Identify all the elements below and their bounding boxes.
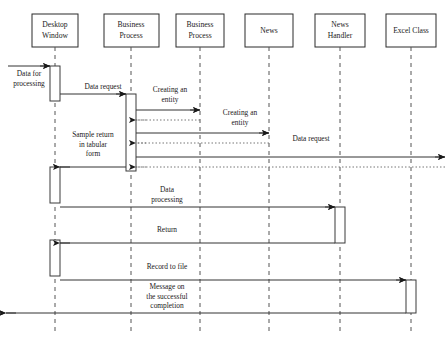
lifeline-label: Business	[117, 20, 144, 29]
lifeline-label: News	[331, 20, 348, 29]
message-label-msg-creating-entity-1: Creating anentity	[153, 85, 188, 104]
lifeline-news-handler[interactable]: NewsHandler	[315, 14, 365, 47]
message-label-msg-record-to-file: Record to file	[147, 262, 188, 271]
message-label-line: Data	[160, 185, 175, 194]
message-label-line: entity	[162, 95, 179, 104]
message-label-line: processing	[13, 79, 45, 88]
message-label-line: Data request	[84, 82, 122, 91]
message-label-msg-data-processing: Dataprocessing	[151, 185, 183, 204]
activation-rect	[50, 167, 60, 203]
message-label-line: processing	[151, 195, 183, 204]
message-label-line: Message on	[149, 282, 184, 291]
message-label-msg-data-for-processing: Data forprocessing	[13, 69, 45, 88]
message-labels-layer: Data forprocessingData requestCreating a…	[13, 69, 330, 310]
lifeline-business-process-2[interactable]: BusinessProcess	[176, 14, 224, 47]
message-label-msg-sample-return: Sample returnin tabularform	[72, 130, 114, 158]
message-label-line: Return	[157, 225, 177, 234]
activation-bar-act-news-handler[interactable]	[335, 207, 345, 243]
lifeline-label: Window	[42, 31, 68, 40]
activation-bar-act-business-1[interactable]	[126, 94, 136, 171]
activation-bar-act-excel[interactable]	[406, 280, 416, 313]
activations-layer	[6, 66, 445, 313]
message-label-line: Sample return	[72, 130, 114, 139]
message-label-line: in tabular	[79, 140, 108, 149]
message-label-line: form	[86, 149, 101, 158]
lifeline-label: Process	[119, 31, 142, 40]
lifeline-label: Business	[186, 20, 213, 29]
lifeline-desktop-window[interactable]: DesktopWindow	[32, 14, 78, 47]
message-label-msg-return: Return	[157, 225, 177, 234]
activation-bar-act-desktop-1[interactable]	[50, 66, 60, 101]
activation-rect	[50, 240, 60, 276]
lifeline-business-process-1[interactable]: BusinessProcess	[104, 14, 159, 47]
lifeline-label: Excel Class	[393, 26, 429, 35]
lifeline-news[interactable]: News	[245, 14, 293, 47]
message-label-line: completion	[150, 301, 184, 310]
message-label-line: Creating an	[223, 108, 258, 117]
messages-layer	[6, 66, 445, 313]
lifeline-label: Handler	[328, 31, 353, 40]
activation-rect	[406, 280, 416, 313]
message-label-msg-creating-entity-2: Creating anentity	[223, 108, 258, 127]
message-label-line: Record to file	[147, 262, 188, 271]
activation-bar-act-desktop-3[interactable]	[50, 240, 60, 276]
sequence-diagram-svg: DesktopWindowBusinessProcessBusinessProc…	[0, 0, 447, 340]
activation-rect	[50, 66, 60, 101]
activation-bar-act-desktop-2[interactable]	[50, 167, 60, 203]
sequence-diagram-canvas: DesktopWindowBusinessProcessBusinessProc…	[0, 0, 447, 340]
activation-rect	[126, 94, 136, 171]
message-label-line: entity	[232, 118, 249, 127]
lifelines-layer: DesktopWindowBusinessProcessBusinessProc…	[32, 14, 436, 332]
message-label-msg-data-request-1: Data request	[84, 82, 122, 91]
message-label-msg-message-success: Message onthe successfulcompletion	[146, 282, 187, 310]
message-label-line: Data for	[17, 69, 42, 78]
activation-rect	[335, 207, 345, 243]
lifeline-label: Process	[188, 31, 211, 40]
lifeline-excel-class[interactable]: Excel Class	[386, 14, 436, 47]
message-label-line: Creating an	[153, 85, 188, 94]
message-label-line: the successful	[146, 292, 187, 301]
message-label-line: Data request	[292, 134, 330, 143]
lifeline-label: News	[260, 26, 277, 35]
message-label-msg-data-request-2: Data request	[292, 134, 330, 143]
lifeline-label: Desktop	[42, 20, 68, 29]
